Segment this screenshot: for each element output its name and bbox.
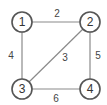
node-label: 2 (87, 15, 94, 29)
node-3: 3 (12, 79, 32, 99)
node-label: 3 (19, 82, 26, 96)
node-1: 1 (12, 12, 32, 32)
node-2: 2 (80, 12, 100, 32)
edge-weight-2-4: 5 (95, 50, 101, 61)
edge-weight-2-3: 3 (62, 52, 68, 63)
graph-diagram: 2 4 3 5 6 1 2 3 4 (0, 0, 107, 105)
edge-weight-1-3: 4 (8, 50, 14, 61)
node-label: 4 (87, 82, 94, 96)
edge-weight-3-4: 6 (53, 93, 59, 104)
node-label: 1 (19, 15, 26, 29)
edge-2-3 (29, 29, 83, 82)
edge-weight-1-2: 2 (54, 8, 60, 19)
node-4: 4 (80, 79, 100, 99)
